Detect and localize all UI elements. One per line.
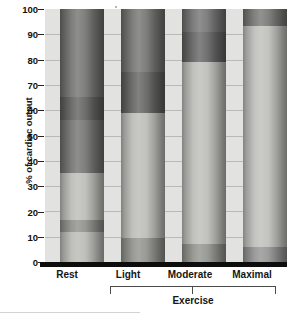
y-tick-mark-40	[38, 161, 44, 162]
bracket-tick-left	[110, 286, 111, 294]
y-tick-label-10: 10	[0, 233, 38, 243]
y-tick-label-100: 100	[0, 5, 38, 15]
x-tick-label-moderate: Moderate	[155, 269, 225, 280]
y-tick-label-40: 40	[0, 157, 38, 167]
y-tick-mark-60	[38, 110, 44, 111]
chart-figure: % of cardiac output 100 90 80 70 60 50 4…	[0, 0, 287, 315]
y-tick-label-20: 20	[0, 208, 38, 218]
y-tick-mark-30	[38, 186, 44, 187]
bar-maximal[interactable]	[243, 9, 287, 262]
bar-light[interactable]	[121, 9, 165, 262]
bar-light-segment-coronary	[121, 238, 165, 262]
x-tick-label-rest: Rest	[38, 269, 96, 280]
bar-rest-segment-mid-light	[60, 173, 104, 220]
x-axis-line	[40, 262, 287, 267]
bar-light-segment-mid-light	[121, 113, 165, 238]
x-tick-label-maximal: Maximal	[219, 269, 285, 280]
exercise-bracket	[110, 286, 276, 295]
y-tick-mark-50	[38, 136, 44, 137]
y-tick-mark-20	[38, 212, 44, 213]
y-tick-label-30: 30	[0, 182, 38, 192]
bar-rest-segment-muscle-dark	[60, 9, 104, 173]
y-tick-mark-10	[38, 237, 44, 238]
bar-moderate-subband-dark	[182, 32, 226, 62]
y-tick-label-50: 50	[0, 132, 38, 142]
y-tick-label-60: 60	[0, 106, 38, 116]
y-tick-label-80: 80	[0, 56, 38, 66]
y-tick-mark-70	[38, 85, 44, 86]
scan-speck	[115, 6, 117, 8]
bar-light-subband-dark	[121, 72, 165, 113]
x-tick-label-light: Light	[99, 269, 157, 280]
plot-area	[45, 9, 285, 262]
y-tick-mark-90	[38, 34, 44, 35]
bar-maximal-segment-mid-light	[243, 26, 287, 247]
bar-moderate-segment-coronary	[182, 244, 226, 262]
y-tick-label-0: 0	[0, 258, 38, 268]
bar-rest-segment-lower-light	[60, 232, 104, 262]
y-tick-label-70: 70	[0, 81, 38, 91]
y-tick-mark-80	[38, 60, 44, 61]
bar-rest[interactable]	[60, 9, 104, 262]
bar-rest-segment-coronary	[60, 220, 104, 231]
scan-artifact-line	[0, 312, 140, 313]
exercise-group-label: Exercise	[110, 295, 276, 306]
bar-moderate-segment-mid-light	[182, 62, 226, 244]
bar-moderate[interactable]	[182, 9, 226, 262]
bar-maximal-segment-coronary	[243, 247, 287, 262]
y-tick-label-90: 90	[0, 30, 38, 40]
bar-rest-subband-dark	[60, 97, 104, 120]
bracket-stem	[192, 286, 193, 294]
bar-maximal-segment-muscle-dark	[243, 9, 287, 26]
bracket-tick-right	[275, 286, 276, 294]
y-tick-mark-100	[38, 9, 44, 10]
